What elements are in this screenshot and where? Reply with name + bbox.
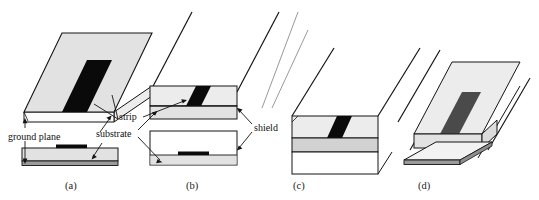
panel-a-xs-strip (56, 145, 87, 149)
panel-d-perspective (398, 50, 530, 165)
panel-c-edge-bottom-right (378, 152, 392, 174)
panel-a-perspective (24, 33, 152, 122)
panel-b-perspective (150, 12, 279, 119)
panel-c-lower-region (292, 152, 378, 174)
panel-b-shield-edge-left (150, 12, 192, 92)
label-substrate: substrate (96, 128, 132, 139)
panel-caption-a: (a) (65, 180, 77, 191)
panel-caption-c: (c) (293, 180, 305, 191)
figure-drawing (0, 0, 539, 200)
panel-b-xs-substrate (151, 155, 237, 165)
panel-caption-d: (d) (418, 180, 430, 191)
panel-c-substrate-layer (292, 138, 378, 152)
panel-d-lower-plate-ground (404, 160, 460, 165)
panel-caption-b: (b) (186, 180, 198, 191)
panel-c-edge-right (378, 48, 420, 116)
panel-c-edge-left (292, 48, 334, 116)
panel-b-xs-strip (178, 152, 209, 156)
label-strip: strip (119, 111, 137, 122)
panel-b-cross-section (150, 131, 237, 165)
panel-b-upper-substrate (150, 106, 237, 119)
figure-planar-transmission-lines: ground plane substrate strip shield (a) … (0, 0, 539, 200)
label-shield: shield (254, 122, 278, 133)
panel-b-c-thin-perspective-lines (262, 12, 308, 108)
panel-c-perspective (292, 48, 420, 174)
panel-a-slab-front-face (24, 112, 114, 122)
panel-a-xs-substrate (22, 148, 118, 161)
panel-a-xs-ground-plane (22, 161, 118, 166)
panel-a-cross-section (22, 145, 118, 166)
label-ground-plane: ground plane (8, 131, 61, 142)
